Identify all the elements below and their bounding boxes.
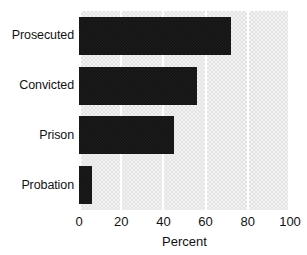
bar <box>79 166 92 204</box>
plot-area <box>79 11 290 210</box>
bar <box>79 17 231 55</box>
y-axis-category-label: Probation <box>0 179 74 192</box>
x-axis-tick-label: 80 <box>241 214 255 229</box>
y-axis-category-label: Prison <box>0 129 74 142</box>
y-axis-category-label: Prosecuted <box>0 29 74 42</box>
y-axis-category-label: Convicted <box>0 79 74 92</box>
bar <box>79 116 174 154</box>
x-axis-tick-label: 60 <box>198 214 212 229</box>
bar-chart: ProsecutedConvictedPrisonProbation 02040… <box>0 0 307 255</box>
x-axis-title: Percent <box>79 234 290 249</box>
x-axis-tick-label: 100 <box>279 214 301 229</box>
gridline <box>247 11 249 210</box>
x-axis-tick-label: 20 <box>114 214 128 229</box>
x-axis-tick-label: 40 <box>156 214 170 229</box>
gridline <box>288 11 290 210</box>
bar <box>79 67 197 105</box>
x-axis-tick-label: 0 <box>75 214 82 229</box>
x-axis-tick-labels: 020406080100 <box>0 214 307 232</box>
y-axis-category-labels: ProsecutedConvictedPrisonProbation <box>0 11 74 210</box>
